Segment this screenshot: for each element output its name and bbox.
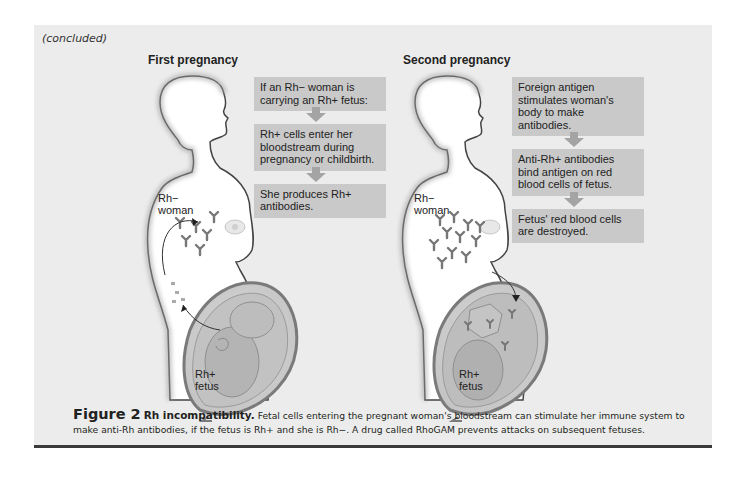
flow-step-2: Rh+ cells enter her bloodstream during p…: [254, 124, 386, 171]
first-woman-label: Rh−woman: [158, 192, 193, 216]
flow-step-3: She produces Rh+ antibodies.: [254, 184, 386, 218]
second-woman-label: Rh−woman: [414, 192, 449, 216]
figure-number: Figure 2: [73, 406, 141, 422]
down-arrow-icon: [306, 113, 326, 122]
first-pregnancy-flow: If an Rh− woman is carrying an Rh+ fetus…: [254, 77, 386, 218]
first-fetus-label: Rh+fetus: [195, 368, 219, 392]
down-arrow-icon: [564, 198, 584, 207]
second-pregnancy-flow: Foreign antigen stimulates woman's body …: [512, 77, 644, 243]
flow-step-2: Anti-Rh+ antibodies bind antigen on red …: [512, 149, 644, 196]
flow-step-3: Fetus' red blood cells are destroyed.: [512, 209, 644, 243]
figure-caption: Figure 2 Rh incompatibility. Fetal cells…: [73, 407, 693, 437]
figure-title: Rh incompatibility.: [144, 409, 255, 421]
second-fetus-label: Rh+fetus: [459, 368, 483, 392]
flow-step-1: Foreign antigen stimulates woman's body …: [512, 77, 644, 136]
down-arrow-icon: [306, 173, 326, 182]
flow-step-1: If an Rh− woman is carrying an Rh+ fetus…: [254, 77, 386, 111]
down-arrow-icon: [564, 138, 584, 147]
